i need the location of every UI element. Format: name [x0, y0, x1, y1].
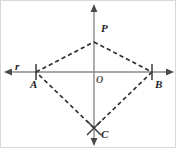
segment-PB: [94, 42, 152, 72]
point-label-P: P: [101, 23, 108, 34]
horizontal-axis-right-arrowhead: [166, 69, 174, 76]
line-label-r: r: [15, 61, 19, 72]
vertical-axis-down-arrowhead: [91, 138, 98, 146]
segment-AP: [36, 42, 94, 72]
geometry-figure: r A B P C O: [0, 0, 176, 148]
point-label-C: C: [101, 129, 108, 140]
horizontal-axis-left-arrowhead: [4, 69, 12, 76]
vertical-axis-up-arrowhead: [91, 4, 98, 12]
point-label-B: B: [155, 79, 162, 90]
figure-canvas: [1, 1, 176, 148]
segment-CA: [36, 72, 94, 128]
origin-label-O: O: [96, 74, 103, 85]
point-label-A: A: [30, 79, 37, 90]
